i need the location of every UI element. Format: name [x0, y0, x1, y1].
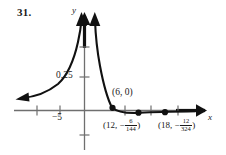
point-label-12-prefix: (12, − [103, 120, 125, 130]
x-tick-label-neg-five: −5 [52, 113, 62, 123]
y-tick-label-quarter: 0.25 [56, 71, 73, 81]
point-label-12-fraction: 6144 [125, 118, 137, 132]
curve-right-top-arrowhead [89, 12, 100, 26]
fraction-denominator: 144 [125, 125, 137, 133]
point-6-0 [109, 105, 115, 111]
point-label-12: (12, −6144) [103, 119, 140, 133]
point-label-18-suffix: ) [192, 120, 195, 130]
curve-right-branch [89, 12, 195, 113]
curve-left-path [22, 20, 82, 98]
point-18 [162, 109, 168, 115]
point-12 [135, 110, 141, 116]
curve-left-arrowhead [16, 93, 30, 102]
x-axis-arrowhead [196, 104, 207, 117]
y-axis-label: y [72, 6, 76, 15]
point-label-18-fraction: 12324 [180, 118, 192, 132]
point-label-12-suffix: ) [137, 120, 140, 130]
curve-left-branch [16, 12, 88, 102]
point-label-6-0: (6, 0) [112, 88, 133, 98]
point-label-18: (18, −12324) [158, 119, 195, 133]
curve-right-path [95, 20, 195, 113]
problem-number: 31. [17, 7, 31, 18]
point-label-18-prefix: (18, − [158, 120, 180, 130]
x-axis-label: x [208, 113, 212, 122]
fraction-denominator: 324 [180, 125, 192, 133]
math-figure: 31. y x 0.25 −5 (6, 0) (12, −6144) (18, … [0, 0, 226, 155]
